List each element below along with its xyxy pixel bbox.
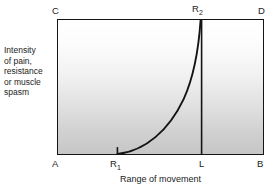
corner-label-c: C xyxy=(52,6,59,16)
point-label-r1: R1 xyxy=(110,159,121,171)
point-label-r1-sub: 1 xyxy=(117,164,121,171)
corner-label-a: A xyxy=(52,159,58,169)
corner-label-b: B xyxy=(257,159,263,169)
plot-area xyxy=(57,19,264,155)
y-axis-label: Intensity of pain, resistance or muscle … xyxy=(4,45,56,98)
x-axis-label: Range of movement xyxy=(57,175,264,184)
corner-label-d: D xyxy=(258,6,265,16)
pain-resistance-curve xyxy=(117,20,200,154)
point-label-r2-sub: 2 xyxy=(199,9,203,16)
curve-svg xyxy=(58,20,263,154)
point-label-r1-main: R xyxy=(110,158,117,169)
pain-resistance-figure: Intensity of pain, resistance or muscle … xyxy=(0,0,274,191)
point-label-r2: R2 xyxy=(192,4,203,16)
point-label-limit: L xyxy=(199,159,204,169)
point-label-r2-main: R xyxy=(192,3,199,14)
